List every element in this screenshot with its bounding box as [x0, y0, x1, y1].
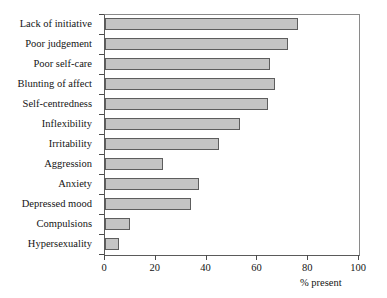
y-axis-tick: [99, 214, 104, 215]
bar-chart: Lack of initiativePoor judgementPoor sel…: [0, 0, 387, 298]
category-label: Poor judgement: [0, 38, 92, 50]
y-axis-tick: [99, 234, 104, 235]
category-label: Hypersexuality: [0, 238, 92, 250]
category-axis-labels: Lack of initiativePoor judgementPoor sel…: [0, 14, 98, 254]
y-axis-tick: [99, 94, 104, 95]
y-axis-tick: [99, 34, 104, 35]
bar: [105, 238, 119, 250]
bar: [105, 138, 219, 150]
bar: [105, 38, 288, 50]
bar: [105, 18, 298, 30]
y-axis-tick: [99, 194, 104, 195]
x-axis-tick-label: 100: [338, 261, 378, 274]
y-axis-tick: [99, 14, 104, 15]
category-label: Poor self-care: [0, 58, 92, 70]
x-axis-tick-label: 20: [135, 261, 175, 274]
x-axis-tick: [358, 255, 359, 260]
bar: [105, 98, 268, 110]
x-axis-tick-label: 40: [186, 261, 226, 274]
category-label: Depressed mood: [0, 198, 92, 210]
x-axis-tick: [307, 255, 308, 260]
category-label: Inflexibility: [0, 118, 92, 130]
x-axis-title: % present: [300, 276, 342, 289]
category-label: Lack of initiative: [0, 18, 92, 30]
bar: [105, 58, 270, 70]
category-label: Compulsions: [0, 218, 92, 230]
category-label: Self-centredness: [0, 98, 92, 110]
y-axis-tick: [99, 134, 104, 135]
y-axis-tick: [99, 114, 104, 115]
bar: [105, 78, 275, 90]
x-axis-tick-label: 60: [236, 261, 276, 274]
x-axis-tick: [206, 255, 207, 260]
bar: [105, 178, 199, 190]
x-axis-tick-label: 80: [287, 261, 327, 274]
y-axis-tick: [99, 54, 104, 55]
category-label: Blunting of affect: [0, 78, 92, 90]
y-axis-tick: [99, 154, 104, 155]
x-axis-tick: [104, 255, 105, 260]
category-label: Aggression: [0, 158, 92, 170]
bars-layer: [105, 14, 359, 254]
x-axis-tick: [256, 255, 257, 260]
bar: [105, 118, 240, 130]
bar: [105, 158, 163, 170]
bar: [105, 198, 191, 210]
category-label: Anxiety: [0, 178, 92, 190]
x-axis-tick: [155, 255, 156, 260]
x-axis-tick-label: 0: [84, 261, 124, 274]
y-axis-tick: [99, 74, 104, 75]
bar: [105, 218, 130, 230]
category-label: Irritability: [0, 138, 92, 150]
y-axis-tick: [99, 174, 104, 175]
